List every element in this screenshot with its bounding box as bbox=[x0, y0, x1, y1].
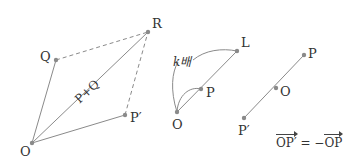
vector-op-prime: OP′ bbox=[276, 136, 297, 150]
label-o: O bbox=[172, 118, 183, 131]
label-o: O bbox=[280, 85, 291, 98]
label-o: O bbox=[20, 145, 31, 158]
negation-formula: OP′ = −OP bbox=[276, 136, 342, 150]
point-r bbox=[146, 30, 150, 34]
label-q: Q bbox=[40, 50, 51, 63]
label-pprime: P′ bbox=[130, 111, 142, 124]
point-p bbox=[199, 87, 203, 91]
label-k-times: k배 bbox=[173, 56, 191, 68]
label-r: R bbox=[152, 17, 162, 30]
point-o bbox=[175, 110, 179, 114]
label-p: P bbox=[206, 86, 215, 99]
vector-op: OP bbox=[324, 136, 342, 150]
label-p: P bbox=[308, 47, 317, 60]
point-l bbox=[235, 49, 239, 53]
point-p bbox=[302, 53, 306, 57]
arc-ol bbox=[173, 62, 178, 112]
point-q bbox=[54, 58, 58, 62]
negation-figure bbox=[244, 55, 304, 118]
segment-ppprime bbox=[244, 55, 304, 118]
dashed-qr bbox=[56, 32, 148, 60]
label-l: L bbox=[241, 36, 250, 49]
arc-ol-upper bbox=[193, 50, 237, 60]
equals-minus: = − bbox=[297, 136, 325, 150]
point-o bbox=[274, 86, 278, 90]
label-pprime: P′ bbox=[238, 124, 250, 137]
dashed-pr bbox=[125, 32, 148, 115]
point-p bbox=[123, 113, 127, 117]
point-pprime bbox=[242, 116, 246, 120]
segment-oq bbox=[32, 60, 56, 143]
